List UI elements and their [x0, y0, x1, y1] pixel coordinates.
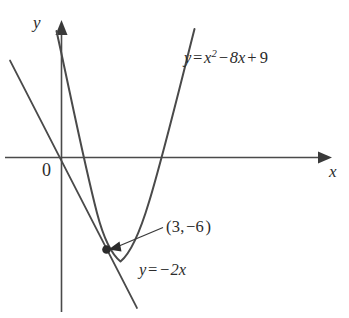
line-eq-lhs: y — [139, 260, 147, 279]
graph-figure: y x 0 y=x2−8x+9 y=−2x (3,−6) — [0, 0, 349, 318]
parabola-eq-var: x — [204, 48, 212, 67]
parabola-eq-minus: − — [217, 48, 230, 67]
tangent-line-curve — [10, 61, 137, 309]
x-axis — [5, 152, 332, 164]
parabola-equation-label: y=x2−8x+9 — [184, 50, 270, 67]
y-axis-label: y — [33, 14, 41, 31]
line-eq-rhs: −2x — [159, 260, 186, 279]
tangency-point-label: (3,−6) — [166, 219, 211, 236]
x-axis-label: x — [329, 163, 337, 180]
parabola-eq-plus: + — [246, 48, 259, 67]
parabola-eq-equals: = — [192, 48, 205, 67]
y-axis — [56, 20, 68, 312]
point-y-value: −6 — [184, 217, 205, 236]
tangency-point-dot — [102, 245, 111, 254]
parabola-eq-linear-term: 8x — [230, 48, 246, 67]
point-x-value: 3 — [172, 217, 180, 236]
vertex-leader — [109, 228, 164, 252]
parabola-eq-lhs: y — [184, 48, 192, 67]
point-close-paren: ) — [205, 217, 211, 236]
parabola-eq-constant: 9 — [258, 48, 269, 67]
line-eq-equals: = — [147, 260, 160, 279]
vertex-leader-line — [119, 228, 163, 247]
origin-label: 0 — [42, 161, 51, 179]
line-equation-label: y=−2x — [139, 262, 186, 279]
